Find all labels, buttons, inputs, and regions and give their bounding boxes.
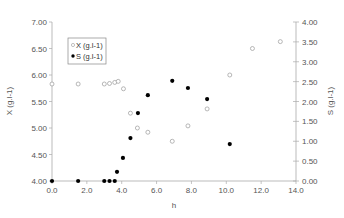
y-tick-label-right: 0.00 xyxy=(302,177,318,186)
data-point-s xyxy=(113,179,117,183)
data-point-x xyxy=(205,107,209,111)
data-point-s xyxy=(121,156,125,160)
data-point-x xyxy=(102,82,106,86)
data-point-x xyxy=(135,126,139,130)
data-point-x xyxy=(146,130,150,134)
data-point-s xyxy=(136,111,140,115)
x-tick-label: 6.0 xyxy=(151,186,163,195)
x-axis-title: h xyxy=(172,201,176,210)
x-tick-label: 8.0 xyxy=(186,186,198,195)
y-tick-label-left: 4.50 xyxy=(31,151,47,160)
x-tick-label: 12.0 xyxy=(253,186,269,195)
legend-label-x: X (g.l-1) xyxy=(76,41,103,50)
y-axis-title-right: S (g.l-1) xyxy=(326,86,335,115)
y-tick-label-right: 1.50 xyxy=(302,117,318,126)
y-tick-label-right: 4.00 xyxy=(302,18,318,27)
y-tick-label-left: 4.00 xyxy=(31,177,47,186)
legend-filled-circle-icon xyxy=(71,54,74,57)
y-tick-label-right: 2.50 xyxy=(302,78,318,87)
data-point-s xyxy=(228,142,232,146)
data-point-x xyxy=(108,81,112,85)
y-tick-label-right: 1.00 xyxy=(302,137,318,146)
data-point-x xyxy=(278,40,282,44)
data-point-s xyxy=(170,79,174,83)
y-tick-label-left: 5.50 xyxy=(31,98,47,107)
legend: X (g.l-1) S (g.l-1) xyxy=(68,38,106,64)
data-point-s xyxy=(76,179,80,183)
data-point-s xyxy=(186,86,190,90)
y-tick-label-left: 6.50 xyxy=(31,45,47,54)
x-tick-label: 4.0 xyxy=(116,186,128,195)
data-point-s xyxy=(107,179,111,183)
data-point-x xyxy=(121,87,125,91)
x-tick-label: 0.0 xyxy=(46,186,58,195)
y-tick-label-left: 6.00 xyxy=(31,71,47,80)
x-tick-label: 14.0 xyxy=(288,186,304,195)
data-point-x xyxy=(228,73,232,77)
y-tick-label-left: 7.00 xyxy=(31,18,47,27)
data-point-s xyxy=(205,97,209,101)
data-point-x xyxy=(128,111,132,115)
data-point-x xyxy=(116,79,120,83)
data-point-x xyxy=(250,47,254,51)
y-tick-label-left: 5.00 xyxy=(31,124,47,133)
legend-open-circle-icon xyxy=(71,43,74,46)
y-tick-label-right: 0.50 xyxy=(302,157,318,166)
data-point-s xyxy=(102,179,106,183)
data-point-s xyxy=(146,93,150,97)
data-point-x xyxy=(76,82,80,86)
data-point-x xyxy=(170,139,174,143)
data-point-x xyxy=(50,82,54,86)
data-point-s xyxy=(115,170,119,174)
data-point-s xyxy=(128,136,132,140)
y-tick-label-right: 3.00 xyxy=(302,58,318,67)
data-point-x xyxy=(186,124,190,128)
data-point-s xyxy=(50,179,54,183)
x-tick-label: 10.0 xyxy=(218,186,234,195)
legend-label-s: S (g.l-1) xyxy=(76,52,103,61)
y-tick-label-right: 3.50 xyxy=(302,38,318,47)
x-tick-label: 2.0 xyxy=(81,186,93,195)
y-axis-title-left: X (g.l-1) xyxy=(5,86,14,115)
scatter-chart: 0.02.04.06.08.010.012.014.04.004.505.005… xyxy=(0,0,344,218)
y-tick-label-right: 2.00 xyxy=(302,98,318,107)
